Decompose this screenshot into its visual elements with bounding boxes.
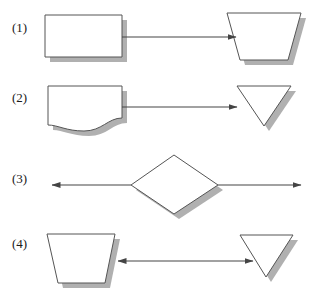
shape-triangle-down [240,235,298,282]
shape-document-wavy-bottom [48,86,127,136]
shape-trapezoid-down [227,13,306,65]
shape-rectangle [45,15,127,62]
flowchart-diagram: (1)(2)(3)(4) [0,0,319,305]
trapezoid-down-outline [47,234,115,283]
trapezoid-down-outline [227,13,301,60]
shape-trapezoid-down [47,234,120,288]
rectangle-outline [45,15,122,57]
row-label-4: (4) [12,236,27,251]
diagram-row-1: (1) [12,13,306,65]
diagram-row-4: (4) [12,234,298,288]
row-label-2: (2) [12,90,27,105]
row-label-1: (1) [12,20,27,35]
diagram-row-3: (3) [12,155,301,219]
diagram-row-2: (2) [12,86,296,136]
row-label-3: (3) [12,171,27,186]
diagram-page: (1)(2)(3)(4) [0,0,319,305]
shape-triangle-down [237,86,296,131]
shape-diamond [131,155,223,219]
diamond-outline [131,155,218,214]
